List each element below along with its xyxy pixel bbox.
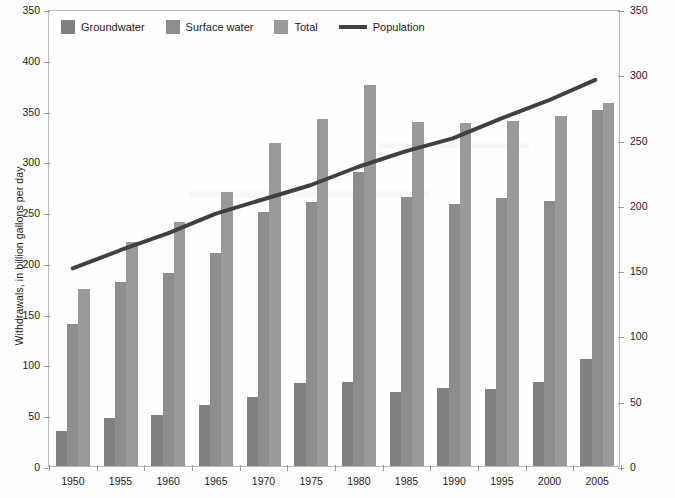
bar-total-1970 (269, 143, 281, 466)
bar-surface-water-1990 (449, 204, 461, 466)
plot-area: 350400350300250200150100500 350300250200… (48, 10, 620, 467)
x-axis-tick-label: 2000 (527, 475, 573, 487)
legend-item-label: Surface water (186, 21, 254, 33)
bar-total-1955 (126, 242, 138, 466)
bar-surface-water-2005 (592, 110, 604, 466)
x-axis-tick-mark (526, 465, 527, 471)
y-axis-right-tick-label: 50 (630, 396, 664, 408)
x-axis-tick-mark (287, 465, 288, 471)
y-axis-left-tick-label: 150 (6, 309, 40, 321)
x-axis-tick-mark (621, 465, 622, 471)
y-axis-right-tick-label: 300 (630, 69, 664, 81)
x-axis-tick-label: 1980 (336, 475, 382, 487)
bar-total-1950 (78, 289, 90, 466)
y-axis-right-tick-label: 250 (630, 135, 664, 147)
bar-total-1965 (221, 192, 233, 466)
x-axis-tick-label: 1965 (193, 475, 239, 487)
bar-total-1990 (460, 123, 472, 466)
y-axis-right-tick-mark (618, 272, 624, 273)
bar-groundwater-1980 (342, 382, 354, 466)
y-axis-left-tick-mark (44, 214, 50, 215)
x-axis-tick-label: 1970 (241, 475, 287, 487)
square-swatch-icon (61, 20, 75, 34)
bar-groundwater-1955 (104, 418, 116, 466)
y-axis-left-tick-label: 0 (6, 461, 40, 473)
y-axis-right-tick-label: 0 (630, 461, 664, 473)
x-axis-tick-mark (573, 465, 574, 471)
legend-item-groundwater[interactable]: Groundwater (61, 20, 145, 34)
x-axis-tick-mark (240, 465, 241, 471)
y-axis-right-tick-mark (618, 11, 624, 12)
x-axis-tick-label: 1985 (384, 475, 430, 487)
y-axis-left-tick-label: 100 (6, 359, 40, 371)
legend-item-label: Population (373, 21, 425, 33)
y-axis-left-tick-label: 250 (6, 207, 40, 219)
bar-surface-water-1995 (496, 198, 508, 466)
bar-surface-water-1985 (401, 197, 413, 466)
y-axis-left-tick-mark (44, 62, 50, 63)
y-axis-right-tick-mark (618, 142, 624, 143)
bar-surface-water-1965 (210, 253, 222, 466)
x-axis-tick-mark (49, 465, 50, 471)
legend: GroundwaterSurface waterTotalPopulation (61, 20, 441, 34)
y-axis-right-tick-label: 200 (630, 200, 664, 212)
bar-groundwater-1965 (199, 405, 211, 466)
y-axis-left-tick-label: 400 (6, 55, 40, 67)
bar-surface-water-1950 (67, 324, 79, 466)
y-axis-left-tick-label: 300 (6, 156, 40, 168)
bar-groundwater-1990 (437, 388, 449, 466)
bar-surface-water-1970 (258, 212, 270, 466)
bar-total-1975 (317, 119, 329, 466)
legend-item-surface-water[interactable]: Surface water (166, 20, 254, 34)
x-axis-tick-label: 2005 (574, 475, 620, 487)
y-axis-left-tick-mark (44, 265, 50, 266)
y-axis-left-tick-label: 350 (6, 106, 40, 118)
x-axis-tick-mark (335, 465, 336, 471)
y-axis-right-tick-mark (618, 403, 624, 404)
bar-total-1980 (364, 85, 376, 466)
y-axis-left-tick-label: 200 (6, 258, 40, 270)
legend-item-population[interactable]: Population (339, 21, 425, 33)
square-swatch-icon (166, 20, 180, 34)
bar-surface-water-1980 (353, 172, 365, 467)
x-axis-tick-mark (192, 465, 193, 471)
bar-surface-water-1975 (306, 202, 318, 466)
figure-canvas: Withdrawals, in billion gallons per day … (0, 0, 675, 498)
x-axis-tick-label: 1955 (98, 475, 144, 487)
x-axis-tick-mark (144, 465, 145, 471)
y-axis-left-tick-mark (44, 366, 50, 367)
y-axis-left-tick-label: 50 (6, 410, 40, 422)
bar-total-1960 (174, 222, 186, 466)
x-axis-tick-mark (383, 465, 384, 471)
bar-total-2005 (603, 103, 615, 466)
line-swatch-icon (339, 25, 367, 29)
bar-total-2000 (555, 116, 567, 466)
x-axis-tick-label: 1990 (431, 475, 477, 487)
bar-surface-water-2000 (544, 201, 556, 466)
y-axis-left-tick-mark (44, 163, 50, 164)
y-axis-left-title: Withdrawals, in billion gallons per day (13, 151, 25, 361)
square-swatch-icon (274, 20, 288, 34)
legend-item-label: Total (294, 21, 317, 33)
legend-item-label: Groundwater (81, 21, 145, 33)
y-axis-left-tick-mark (44, 417, 50, 418)
x-axis-tick-mark (478, 465, 479, 471)
bar-surface-water-1960 (163, 273, 175, 466)
y-axis-right-tick-label: 150 (630, 265, 664, 277)
bar-groundwater-1995 (485, 389, 497, 466)
y-axis-right-tick-label: 100 (630, 330, 664, 342)
y-axis-right-tick-label: 350 (630, 4, 664, 16)
x-axis-tick-mark (97, 465, 98, 471)
bar-groundwater-1985 (390, 392, 402, 466)
y-axis-right-tick-mark (618, 76, 624, 77)
x-axis-tick-mark (430, 465, 431, 471)
y-axis-left-tick-mark (44, 113, 50, 114)
bar-total-1985 (412, 122, 424, 466)
bar-total-1995 (507, 121, 519, 466)
x-axis-tick-label: 1960 (145, 475, 191, 487)
x-axis-tick-label: 1950 (50, 475, 96, 487)
y-axis-left-tick-mark (44, 11, 50, 12)
x-axis-tick-label: 1995 (479, 475, 525, 487)
bar-groundwater-1960 (151, 415, 163, 466)
legend-item-total[interactable]: Total (274, 20, 317, 34)
